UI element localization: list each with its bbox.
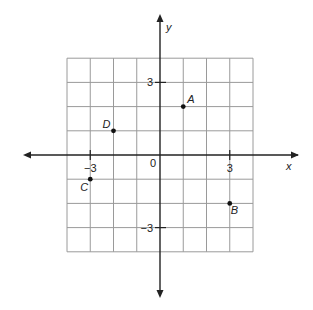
point-a: [181, 104, 186, 109]
y-axis-label: y: [165, 21, 173, 33]
point-label-a: A: [186, 93, 194, 105]
point-label-d: D: [103, 118, 111, 130]
x-axis-left-arrow-icon: [23, 152, 31, 159]
point-label-c: C: [80, 181, 88, 193]
axes: x y 0: [23, 14, 299, 298]
x-tick-label: −3: [84, 162, 97, 174]
y-tick-label: −3: [140, 222, 153, 234]
point-d: [111, 128, 116, 133]
y-tick-label: 3: [147, 76, 153, 88]
y-axis-up-arrow-icon: [157, 14, 164, 22]
x-axis-right-arrow-icon: [291, 152, 299, 159]
coordinate-plane: x y 0 −333−3 ABCD: [0, 0, 313, 310]
point-c: [88, 177, 93, 182]
point-label-b: B: [231, 204, 238, 216]
origin-label: 0: [150, 157, 156, 169]
y-axis-down-arrow-icon: [157, 290, 164, 298]
x-tick-label: 3: [227, 162, 233, 174]
x-axis-label: x: [285, 160, 292, 172]
